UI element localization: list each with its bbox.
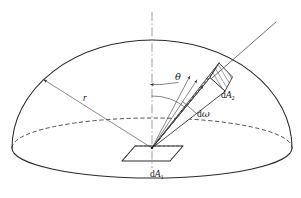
- origin-dot: [151, 147, 153, 149]
- ray-1: [152, 86, 203, 148]
- radius-arrow-line: [44, 80, 153, 149]
- domega-label: dω: [197, 108, 210, 119]
- extension-ray-group: [212, 22, 276, 78]
- origin-point: [151, 147, 153, 149]
- radius-label: r: [83, 93, 87, 103]
- polar-angle-indicator: θ: [151, 71, 187, 108]
- theta-arc: [152, 96, 186, 108]
- dA1-label: dA1: [150, 169, 164, 180]
- source-patch-dA1: dA1: [122, 146, 183, 180]
- area2-label-group: dA2: [221, 90, 235, 101]
- radius-indicator: r: [44, 80, 153, 149]
- theta-label: θ: [175, 71, 181, 82]
- dA2-label: dA2: [221, 90, 235, 101]
- figure-container: r θ: [0, 0, 301, 198]
- beam-lower-face: [152, 78, 225, 149]
- extension-ray: [212, 22, 276, 78]
- theta-leader: [161, 83, 178, 85]
- solid-angle-diagram: r θ: [0, 0, 301, 198]
